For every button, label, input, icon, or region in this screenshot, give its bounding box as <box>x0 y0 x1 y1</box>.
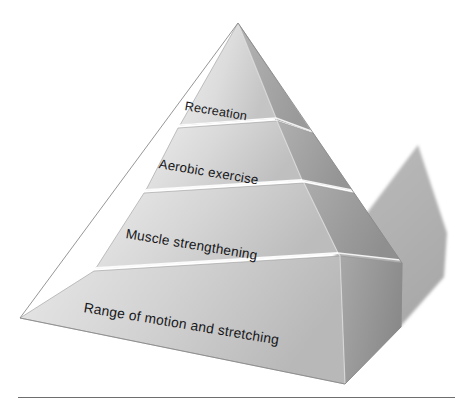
front-face-tier-2 <box>146 121 302 190</box>
pyramid-diagram: Recreation Aerobic exercise Muscle stren… <box>0 0 464 407</box>
right-face-tier-4 <box>340 256 402 384</box>
footer-divider <box>18 397 455 398</box>
pyramid-graphic <box>0 0 464 407</box>
front-face-tier-4 <box>20 256 345 384</box>
pyramid-front-face <box>20 23 345 384</box>
